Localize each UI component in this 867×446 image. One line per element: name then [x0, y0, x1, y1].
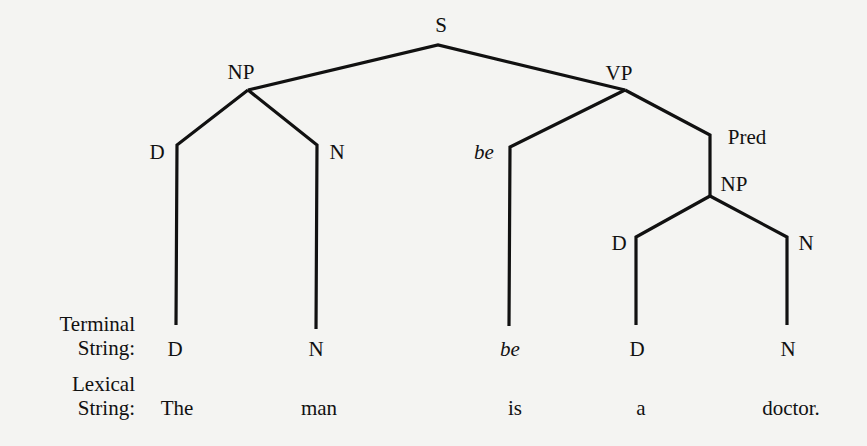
node-vp: VP [606, 63, 633, 84]
node-be: be [474, 142, 494, 163]
terminal-d-2: D [629, 339, 644, 360]
lexical-string-label: Lexical String: [20, 374, 135, 419]
node-pred: Pred [728, 127, 767, 148]
branch-prednp-d [636, 196, 710, 325]
lexical-label-line1: Lexical [20, 374, 135, 395]
lexical-a: a [636, 398, 645, 419]
node-n-subject: N [329, 142, 344, 163]
phrase-structure-tree: S NP D N VP be Pred NP D N Terminal Stri… [0, 0, 867, 446]
branch-s [248, 45, 625, 90]
terminal-label-line2: String: [20, 338, 135, 359]
branch-vp-be [509, 90, 625, 326]
lexical-man: man [301, 398, 337, 419]
terminal-be: be [500, 339, 520, 360]
branch-np-d [176, 90, 248, 325]
node-d-pred: D [611, 233, 626, 254]
node-s: S [435, 15, 447, 36]
node-d-subject: D [149, 142, 164, 163]
node-np-pred: NP [721, 174, 748, 195]
lexical-the: The [161, 398, 194, 419]
lexical-label-line2: String: [20, 398, 135, 419]
lexical-is: is [508, 398, 522, 419]
terminal-string-label: Terminal String: [20, 314, 135, 359]
terminal-n-2: N [780, 339, 795, 360]
lexical-doctor: doctor. [762, 398, 820, 419]
branch-vp-pred [625, 90, 710, 196]
terminal-n-1: N [308, 339, 323, 360]
terminal-d-1: D [167, 339, 182, 360]
node-n-pred: N [798, 233, 813, 254]
node-np-subject: NP [228, 62, 255, 83]
branch-np-n [248, 90, 317, 329]
branch-prednp-n [710, 196, 787, 325]
terminal-label-line1: Terminal [20, 314, 135, 335]
